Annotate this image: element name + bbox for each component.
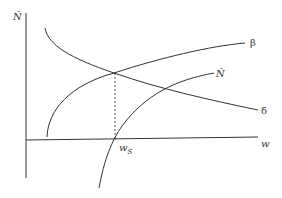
ws-label: wS: [119, 142, 133, 156]
x-axis: [26, 137, 258, 140]
beta-label: β: [250, 37, 256, 48]
x-axis-label: w: [261, 138, 270, 149]
delta-label: δ: [261, 105, 267, 116]
beta-curve: [47, 43, 245, 137]
y-axis-label: Ñ: [12, 11, 23, 22]
diagram-canvas: Ñ w β δ Ñ wS: [0, 0, 282, 198]
n-tilde-label: Ñ: [215, 68, 226, 79]
ws-subscript: S: [128, 148, 133, 156]
n-tilde-curve: [99, 73, 214, 188]
delta-curve: [45, 28, 258, 110]
